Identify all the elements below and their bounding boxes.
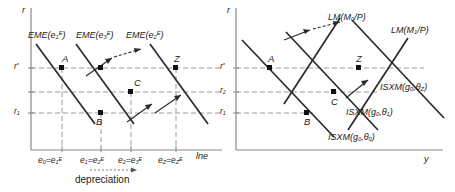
- curve-label-isxm-thetaz: ISXM(g0,θZ): [380, 83, 427, 93]
- right-y-axis-label: r: [227, 6, 230, 15]
- left-point-label-B: B: [96, 117, 102, 127]
- left-point-marker-B: [98, 110, 103, 115]
- left-y-axis-label: r: [22, 6, 25, 15]
- right-point-marker-B: [304, 110, 309, 115]
- right-point-marker-C: [331, 89, 336, 94]
- right-point-label-B: B: [304, 117, 310, 127]
- left-point-marker-C: [128, 89, 133, 94]
- right-ytick-label-r2: r2: [220, 86, 226, 96]
- left-panel-eme-diagram: r lne r* r1 e0=e1E e1=e2E e2=e3E eZ=eZE …: [0, 0, 228, 192]
- left-ytick-label-r1: r1: [14, 107, 20, 117]
- left-point-label-A: A: [62, 54, 68, 64]
- right-curve-isxm-theta0: [242, 40, 334, 137]
- curve-label-eme-3: EME(e3E): [76, 31, 114, 41]
- left-xtick-label-1: e1=e2E: [80, 156, 104, 166]
- left-panel-plot-area: [0, 0, 228, 192]
- right-point-marker-A: [267, 65, 272, 70]
- right-ytick-label-rstar: r*: [220, 62, 225, 71]
- economics-two-panel-figure: r lne r* r1 e0=e1E e1=e2E e2=e3E eZ=eZE …: [0, 0, 455, 192]
- left-xtick-label-3: eZ=eZE: [158, 156, 183, 166]
- right-panel-isxm-lm-diagram: r y r* r2 r1 LM(M0/P) LM(M1/P) ISXM(g0,θ…: [228, 0, 455, 192]
- right-point-label-C: C: [331, 97, 338, 107]
- left-xtick-label-2: e2=e3E: [118, 156, 142, 166]
- right-point-label-A: A: [268, 54, 274, 64]
- left-ytick-label-rstar: r*: [14, 62, 19, 71]
- depreciation-label: depreciation: [75, 175, 129, 185]
- right-point-label-Z: Z: [356, 54, 362, 64]
- left-shift-arrow-lower-2: [155, 95, 181, 113]
- left-point-marker-A: [59, 65, 64, 70]
- curve-label-isxm-theta0: ISXM(g0,θ0): [328, 133, 375, 143]
- left-curve-eme-3: [76, 44, 134, 124]
- right-point-marker-Z: [356, 65, 361, 70]
- left-point-marker-mid: [98, 65, 103, 70]
- left-xtick-label-0: e0=e1E: [38, 156, 62, 166]
- left-point-label-Z: Z: [174, 54, 180, 64]
- curve-label-lm-m1: LM(M1/P): [391, 26, 429, 36]
- depreciation-arrow: [90, 168, 137, 173]
- left-x-axis-label: lne: [196, 152, 208, 161]
- left-point-label-C: C: [134, 78, 141, 88]
- right-shift-arrow-lower: [346, 80, 368, 98]
- curve-label-eme-1: EME(e1E): [28, 31, 66, 41]
- curve-label-isxm-theta1: ISXM(g0,θ1): [346, 108, 393, 118]
- left-point-marker-Z: [173, 65, 178, 70]
- right-x-axis-label: y: [424, 155, 429, 164]
- right-ytick-label-r1: r1: [220, 107, 226, 117]
- curve-label-eme-2: EME(e2E): [126, 31, 164, 41]
- curve-label-lm-m0: LM(M0/P): [328, 13, 366, 23]
- left-shift-arrow-upper-dashed: [114, 48, 141, 57]
